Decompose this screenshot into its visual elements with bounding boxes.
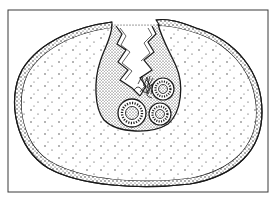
- disc-upper-right: [152, 78, 174, 100]
- figure: [0, 0, 276, 200]
- disc-large: [118, 99, 146, 127]
- diagram-canvas: [0, 0, 276, 200]
- disc-lower-right: [149, 103, 171, 125]
